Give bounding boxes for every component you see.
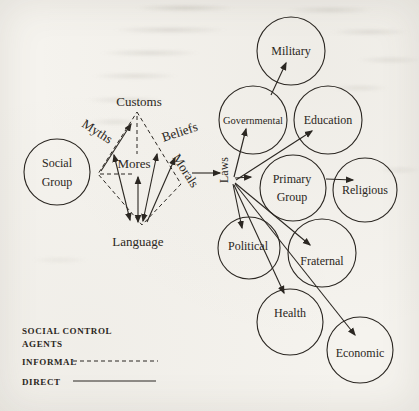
legend-direct-label: DIRECT xyxy=(22,377,61,387)
governmental-label: Governmental xyxy=(223,115,283,126)
fraternal-label: Fraternal xyxy=(300,254,344,268)
legend-informal-label: INFORMAL xyxy=(22,357,77,367)
social-control-diagram: Social Group Customs Mores Language Myth… xyxy=(0,0,419,411)
laws-label: Laws xyxy=(217,157,231,183)
myths-label: Myths xyxy=(79,116,115,147)
fraternal-circle xyxy=(288,219,356,287)
political-label: Political xyxy=(228,239,269,253)
morals-label: Morals xyxy=(169,151,202,190)
primary-group-label-line2: Group xyxy=(277,190,308,204)
mores-label: Mores xyxy=(117,156,150,171)
health-circle xyxy=(257,289,323,355)
primary-group-circle xyxy=(260,155,326,221)
legend-title-line2: AGENTS xyxy=(22,339,63,349)
social-group-circle xyxy=(24,139,90,205)
beliefs-label: Beliefs xyxy=(160,119,200,145)
religious-label: Religious xyxy=(342,183,388,197)
health-label: Health xyxy=(274,306,306,320)
primary-group-label-line1: Primary xyxy=(273,172,312,186)
laws-to-primary-group-arrow xyxy=(235,177,251,178)
economic-label: Economic xyxy=(336,346,385,360)
scanned-figure-page: Social Group Customs Mores Language Myth… xyxy=(0,0,419,411)
primary-group-to-religious-arrow xyxy=(326,179,353,180)
social-group-label-line2: Group xyxy=(42,175,73,189)
education-label: Education xyxy=(304,113,353,127)
military-label: Military xyxy=(271,44,310,58)
language-label: Language xyxy=(112,234,163,249)
legend-title-line1: SOCIAL CONTROL xyxy=(22,326,112,336)
governmental-to-military-arrow xyxy=(271,63,286,95)
customs-label: Customs xyxy=(116,94,162,109)
language-morals-arrow xyxy=(147,158,175,222)
social-group-label-line1: Social xyxy=(42,156,73,170)
